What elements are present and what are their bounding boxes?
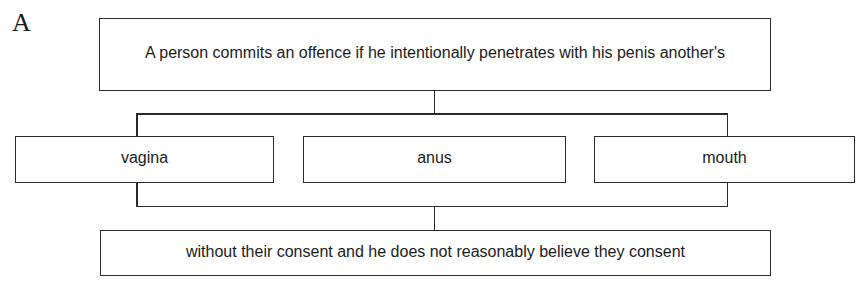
consent-condition-box: without their consent and he does not re… [100,230,771,276]
option-box-mouth: mouth [594,136,855,183]
connector-lower-bracket [136,206,728,208]
connector-upper-bracket [136,113,728,115]
panel-label: A [12,9,31,37]
connector-top-stem [434,90,436,114]
offence-definition-box: A person commits an offence if he intent… [99,18,771,91]
connector-upper-drop-left [136,113,138,137]
offence-definition-text: A person commits an offence if he intent… [105,43,765,63]
consent-condition-text: without their consent and he does not re… [176,242,695,262]
option-label: mouth [692,148,756,168]
connector-upper-drop-right [727,113,729,137]
option-label: anus [407,148,462,168]
option-box-vagina: vagina [15,136,274,183]
option-box-anus: anus [303,136,566,183]
connector-lower-rise-left [136,182,138,207]
option-label: vagina [111,148,178,168]
connector-lower-rise-right [727,182,729,207]
connector-bottom-stem [434,206,436,231]
